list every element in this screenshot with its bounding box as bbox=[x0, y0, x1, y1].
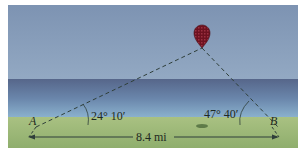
sky bbox=[8, 5, 298, 80]
background bbox=[8, 5, 298, 148]
point-b-label: B bbox=[270, 115, 277, 127]
angle-a-label: 24° 10′ bbox=[91, 110, 125, 122]
angle-b-label: 47° 40′ bbox=[204, 108, 238, 120]
balloon-shadow bbox=[196, 124, 208, 128]
point-a-label: A bbox=[29, 115, 36, 127]
distance-label: 8.4 mi bbox=[136, 131, 167, 143]
sea bbox=[8, 79, 298, 118]
